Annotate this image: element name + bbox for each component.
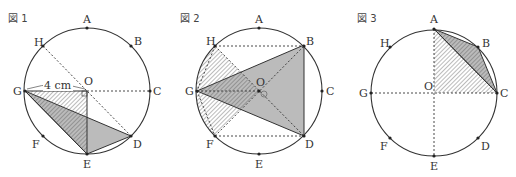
label-O: O — [84, 75, 93, 88]
label-B: B — [134, 35, 142, 48]
geometry-figures: 図 1 4 cm A B C D E F G H O 図 2 — [0, 0, 516, 177]
label-C: C — [153, 85, 161, 98]
label-C: C — [326, 85, 334, 98]
label-H: H — [206, 35, 216, 48]
label-B: B — [306, 35, 314, 48]
label-G: G — [185, 85, 194, 98]
label-G: G — [359, 87, 368, 100]
label-E: E — [430, 160, 438, 173]
label-E: E — [255, 158, 263, 171]
label-H: H — [380, 37, 390, 50]
label-A: A — [82, 13, 92, 26]
label-F: F — [32, 138, 40, 151]
label-H: H — [34, 36, 44, 49]
measure-label: 4 cm — [44, 79, 72, 92]
label-B: B — [482, 37, 490, 50]
figure-1-title: 図 1 — [8, 13, 28, 24]
figure-1: 図 1 4 cm A B C D E F G H O — [8, 13, 161, 171]
label-F: F — [206, 138, 214, 151]
label-A: A — [429, 13, 439, 26]
figure-2-title: 図 2 — [180, 13, 200, 24]
label-E: E — [83, 158, 91, 171]
label-O: O — [424, 80, 433, 93]
label-C: C — [500, 87, 508, 100]
label-D: D — [481, 140, 490, 153]
label-F: F — [380, 140, 388, 153]
label-D: D — [133, 138, 142, 151]
label-O: O — [256, 76, 265, 89]
figure-3-title: 図 3 — [357, 13, 377, 24]
label-A: A — [254, 13, 264, 26]
figure-2: 図 2 A B C D E F G H O — [180, 13, 334, 171]
label-D: D — [305, 138, 314, 151]
figure-3: 図 3 A B C D E F G H O — [357, 13, 508, 173]
label-G: G — [13, 85, 22, 98]
